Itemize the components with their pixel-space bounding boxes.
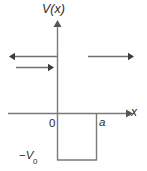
y-axis-arrowhead: [54, 20, 62, 27]
y-axis-label: V(x): [42, 3, 65, 16]
well-edge-label: a: [99, 117, 105, 129]
origin-label: 0: [49, 118, 55, 130]
x-axis-label: x: [131, 106, 137, 118]
well-depth-minus-sign: −: [19, 149, 26, 161]
finite-square-well-figure: V(x) x 0 a −V0: [0, 0, 147, 171]
potential-well-diagram: [0, 0, 147, 171]
reflected-wave-arrow-right: [16, 64, 54, 71]
incident-wave-arrow-left: [9, 53, 57, 60]
well-depth-subscript: 0: [33, 157, 37, 166]
well-depth-label: −V0: [19, 150, 38, 164]
transmitted-wave-arrow-right: [88, 53, 134, 60]
